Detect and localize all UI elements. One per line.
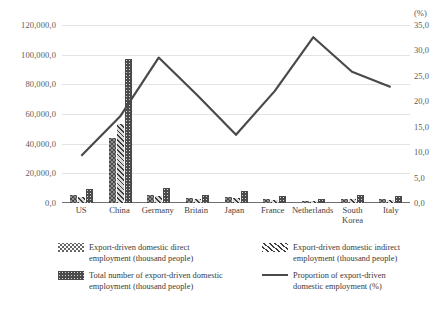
legend-item-direct: Export-driven domestic direct employment… <box>58 242 248 264</box>
x-axis-label: Italy <box>372 205 410 225</box>
bar <box>163 188 170 203</box>
bar <box>263 199 270 203</box>
legend-label-proportion-line1: Proportion of export-driven <box>293 271 386 280</box>
bar <box>387 200 394 203</box>
right-axis-tick-label: 25,0 <box>414 71 429 81</box>
legend-label-proportion: Proportion of export-driven domestic emp… <box>293 270 386 292</box>
left-axis-tick-label: 80,000,0 <box>25 79 56 89</box>
legend-swatch-total-icon <box>58 271 84 280</box>
x-axis-label: South Korea <box>333 205 371 225</box>
bar <box>233 198 240 203</box>
right-axis-tick-label: 35,0 <box>414 20 429 30</box>
bar <box>86 189 93 203</box>
right-axis-unit-label: (%) <box>414 8 427 18</box>
right-axis-tick-label: 10,0 <box>414 147 429 157</box>
right-axis-tick-labels: 0,05,010,015,020,025,030,035,0 <box>414 25 439 203</box>
bar <box>349 199 356 203</box>
bar <box>271 200 278 203</box>
bar <box>70 195 77 203</box>
bar-group <box>62 25 101 203</box>
bar <box>155 196 162 203</box>
bar <box>302 201 309 203</box>
legend-label-indirect: Export-driven domestic indirect employme… <box>293 242 400 264</box>
legend-label-proportion-line2: domestic employment (%) <box>293 282 382 291</box>
left-axis-tick-label: 40,000,0 <box>25 139 56 149</box>
bar-group <box>139 25 178 203</box>
bar <box>117 124 124 203</box>
legend-label-direct-line1: Export-driven domestic direct <box>89 243 189 252</box>
bar-group <box>178 25 217 203</box>
bar <box>395 196 402 203</box>
legend-item-total: Total number of export-driven domestic e… <box>58 270 258 292</box>
legend-label-total: Total number of export-driven domestic e… <box>89 270 223 292</box>
right-axis-tick-label: 5,0 <box>414 173 425 183</box>
legend-label-indirect-line2: employment (thousand people) <box>293 254 397 263</box>
legend-swatch-proportion-line-icon <box>262 271 288 280</box>
legend-label-direct: Export-driven domestic direct employment… <box>89 242 193 264</box>
bar <box>186 198 193 203</box>
bar-group <box>333 25 372 203</box>
x-axis-label: Germany <box>139 205 177 225</box>
x-axis-label: Britain <box>177 205 215 225</box>
left-axis-tick-label: 100,000,0 <box>21 50 56 60</box>
bar-group <box>294 25 333 203</box>
bar <box>341 199 348 203</box>
x-axis-label: Netherlands <box>292 205 334 225</box>
left-axis-tick-labels: 0,020,000,040,000,060,000,080,000,0100,0… <box>0 25 56 203</box>
legend-item-proportion: Proportion of export-driven domestic emp… <box>262 270 437 292</box>
bar <box>225 197 232 203</box>
bar <box>109 138 116 203</box>
bar <box>147 195 154 203</box>
bar <box>78 197 85 203</box>
bar <box>279 196 286 203</box>
bar-group <box>255 25 294 203</box>
left-axis-tick-label: 120,000,0 <box>21 20 56 30</box>
legend-label-total-line2: employment (thousand people) <box>89 282 193 291</box>
bar <box>318 199 325 203</box>
x-axis-category-labels: USChinaGermanyBritainJapanFranceNetherla… <box>62 205 410 225</box>
bar-group <box>371 25 410 203</box>
left-axis-tick-label: 0,0 <box>45 198 56 208</box>
left-axis-tick-label: 60,000,0 <box>25 109 56 119</box>
legend-label-indirect-line1: Export-driven domestic indirect <box>293 243 400 252</box>
bar <box>241 191 248 203</box>
bar <box>357 195 364 203</box>
x-axis-label: US <box>62 205 100 225</box>
x-axis-label: Japan <box>215 205 253 225</box>
bar <box>194 199 201 203</box>
right-axis-tick-label: 0,0 <box>414 198 425 208</box>
bar-group <box>101 25 140 203</box>
right-axis-tick-label: 15,0 <box>414 122 429 132</box>
bar <box>125 59 132 203</box>
bar <box>202 195 209 203</box>
x-axis-label: China <box>100 205 138 225</box>
bar <box>379 199 386 203</box>
chart-legend: Export-driven domestic direct employment… <box>0 238 439 308</box>
chart-figure: (%) 0,020,000,040,000,060,000,080,000,01… <box>0 0 439 314</box>
left-axis-tick-label: 20,000,0 <box>25 168 56 178</box>
right-axis-tick-label: 30,0 <box>414 45 429 55</box>
legend-swatch-indirect-icon <box>262 243 288 252</box>
bar-groups <box>62 25 410 203</box>
bar-group <box>217 25 256 203</box>
legend-item-indirect: Export-driven domestic indirect employme… <box>262 242 437 264</box>
bar <box>310 201 317 203</box>
legend-swatch-direct-icon <box>58 243 84 252</box>
right-axis-tick-label: 20,0 <box>414 96 429 106</box>
x-axis-label: France <box>254 205 292 225</box>
legend-label-direct-line2: employment (thousand people) <box>89 254 193 263</box>
legend-label-total-line1: Total number of export-driven domestic <box>89 271 223 280</box>
